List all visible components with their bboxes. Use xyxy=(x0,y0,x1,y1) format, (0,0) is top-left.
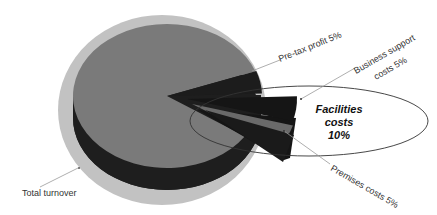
pie-chart: Pre-tax profit 5% Business support costs… xyxy=(0,0,437,215)
callout-line1: Facilities xyxy=(315,103,362,115)
callout-line2: costs xyxy=(325,116,354,128)
leader-total xyxy=(40,168,78,187)
leader-pretax xyxy=(252,60,280,71)
leader-business-dot xyxy=(300,98,302,100)
leader-business xyxy=(301,68,355,99)
label-premises-costs: Premises costs 5% xyxy=(329,163,400,210)
leader-premises-dot xyxy=(283,130,285,132)
label-pre-tax-profit: Pre-tax profit 5% xyxy=(277,29,343,63)
callout-line3: 10% xyxy=(328,129,350,141)
label-total-turnover: Total turnover xyxy=(22,188,77,198)
leader-total-dot xyxy=(78,167,80,169)
